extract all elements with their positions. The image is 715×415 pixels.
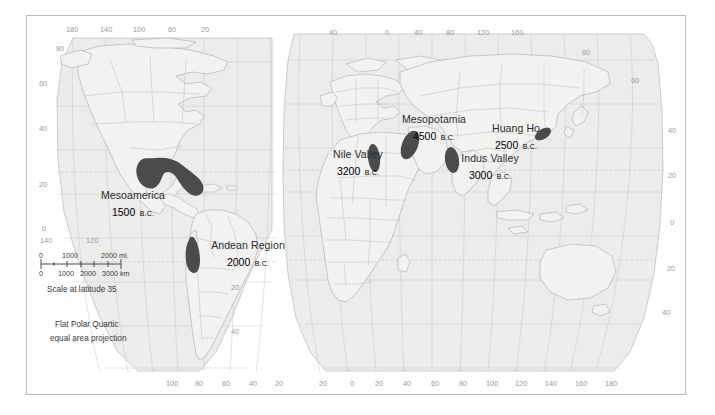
- tick-left-lat-40: 40: [39, 124, 47, 133]
- civ-label-indus-name: Indus Valley: [450, 152, 530, 164]
- tick-top-west-60: 60: [168, 25, 176, 34]
- scale-miles-2000: 2000 mi.: [101, 251, 129, 260]
- civ-label-andean-date: 2000: [227, 256, 250, 268]
- civ-label-indus: Indus Valley 3000 B.C.: [450, 152, 530, 183]
- civ-label-nile-date-row: 3200 B.C.: [322, 161, 394, 179]
- civ-label-andean-era: B.C.: [255, 260, 269, 267]
- tick-top-east-120: 120: [477, 28, 489, 37]
- civ-label-huangho: Huang Ho 2500 B.C.: [483, 122, 549, 153]
- tick-top-west-20: 20: [201, 25, 209, 34]
- tick-left-lon-120: 120: [86, 236, 98, 245]
- tick-bottom-west-100: 100: [166, 379, 178, 388]
- civ-label-andean-name: Andean Region: [201, 239, 295, 251]
- civ-label-nile-name: Nile Valley: [322, 148, 394, 160]
- scale-km-2000: 2000: [80, 269, 96, 278]
- civ-label-andean-date-row: 2000 B.C.: [201, 252, 295, 270]
- civ-label-mesoamerica-name: Mesoamerica: [92, 189, 174, 201]
- tick-left-lat-20: 20: [39, 180, 47, 189]
- tick-bottom-east-80: 80: [459, 379, 467, 388]
- tick-mid-lat-40: 40: [231, 327, 239, 336]
- civ-label-mesoamerica-era: B.C.: [140, 210, 154, 217]
- scale-caption: Scale at latitude 35: [47, 285, 117, 294]
- civ-label-nile-date: 3200: [337, 165, 360, 177]
- civ-label-mesopotamia-date-row: 4500 B.C.: [392, 126, 476, 144]
- civ-label-nile: Nile Valley 3200 B.C.: [322, 148, 394, 179]
- tick-top-east-160: 160: [511, 28, 523, 37]
- tick-bottom-west-40: 40: [249, 379, 257, 388]
- scale-km-0: 0: [39, 269, 43, 278]
- tick-bottom-west-60: 60: [222, 379, 230, 388]
- tick-bottom-west-20: 20: [275, 379, 283, 388]
- tick-left-lon-140: 140: [40, 236, 52, 245]
- projection-note-line1: Flat Polar Quartic: [55, 320, 119, 329]
- eastern-hemisphere-lobe: [283, 34, 663, 372]
- tick-bottom-east-160: 160: [575, 379, 587, 388]
- civ-label-indus-era: B.C.: [497, 173, 511, 180]
- civ-label-huangho-era: B.C.: [523, 143, 537, 150]
- tick-right-lat-80: 80: [582, 48, 590, 57]
- civ-label-huangho-name: Huang Ho: [483, 122, 549, 134]
- tick-right-lat-0: 0: [670, 218, 674, 227]
- tick-mid-lat-20: 20: [231, 283, 239, 292]
- civ-label-huangho-date: 2500: [495, 139, 518, 151]
- civ-label-nile-era: B.C.: [365, 169, 379, 176]
- civ-label-huangho-date-row: 2500 B.C.: [483, 135, 549, 153]
- scale-km-3000: 3000 km: [102, 269, 130, 278]
- tick-right-lat-60: 60: [631, 76, 639, 85]
- civ-label-mesoamerica: Mesoamerica 1500 B.C.: [92, 189, 174, 220]
- civ-label-mesoamerica-date: 1500: [112, 206, 135, 218]
- scale-miles-1000: 1000: [62, 251, 78, 260]
- tick-bottom-east-60: 60: [431, 379, 439, 388]
- tick-left-lat-80: 80: [56, 44, 64, 53]
- civ-label-mesoamerica-date-row: 1500 B.C.: [92, 202, 174, 220]
- tick-bottom-east-20w: 20: [319, 379, 327, 388]
- tick-top-east-80: 80: [446, 28, 454, 37]
- civ-label-andean: Andean Region 2000 B.C.: [201, 239, 295, 270]
- civ-label-mesopotamia-name: Mesopotamia: [392, 113, 476, 125]
- tick-bottom-east-140: 140: [545, 379, 557, 388]
- tick-right-lat-40s: 40: [662, 308, 670, 317]
- civ-label-mesopotamia-era: B.C.: [441, 134, 455, 141]
- tick-bottom-east-100: 100: [486, 379, 498, 388]
- tick-top-east-0: 0: [385, 28, 389, 37]
- civ-label-mesopotamia: Mesopotamia 4500 B.C.: [392, 113, 476, 144]
- tick-top-west-180: 180: [66, 25, 78, 34]
- tick-right-lat-40n: 40: [668, 126, 676, 135]
- tick-top-west-140: 140: [100, 25, 112, 34]
- map-figure: 180 140 100 60 20 40 0 40 80 120 160 80 …: [0, 0, 715, 415]
- tick-top-west-100: 100: [133, 25, 145, 34]
- tick-bottom-east-180: 180: [605, 379, 617, 388]
- civ-label-mesopotamia-date: 4500: [413, 130, 436, 142]
- scale-miles-0: 0: [39, 251, 43, 260]
- tick-top-east-40w: 40: [329, 28, 337, 37]
- civ-label-indus-date-row: 3000 B.C.: [450, 165, 530, 183]
- tick-bottom-east-120: 120: [515, 379, 527, 388]
- tick-bottom-east-0: 0: [350, 379, 354, 388]
- civ-label-indus-date: 3000: [469, 169, 492, 181]
- tick-right-lat-20s: 20: [667, 264, 675, 273]
- projection-note-line2: equal area projection: [50, 334, 126, 343]
- tick-bottom-west-80: 80: [195, 379, 203, 388]
- tick-top-east-40: 40: [414, 28, 422, 37]
- tick-right-lat-20n: 20: [668, 171, 676, 180]
- tick-left-lat-0: 0: [42, 224, 46, 233]
- scale-km-1000: 1000: [58, 269, 74, 278]
- tick-bottom-east-40: 40: [403, 379, 411, 388]
- tick-left-lat-60: 60: [39, 79, 47, 88]
- tick-bottom-east-20: 20: [375, 379, 383, 388]
